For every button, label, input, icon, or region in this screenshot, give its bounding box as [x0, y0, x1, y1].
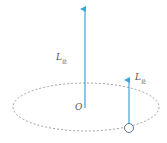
particle-circle — [125, 124, 134, 133]
origin-symbol: O — [75, 102, 82, 112]
orbit-ellipse — [13, 83, 159, 131]
origin-label: O — [75, 102, 82, 112]
big-L-subscript: 总 — [62, 58, 67, 64]
big-L-label: L总 — [56, 52, 67, 64]
small-L-subscript: 总 — [141, 78, 146, 84]
small-L-label: L总 — [135, 72, 146, 84]
